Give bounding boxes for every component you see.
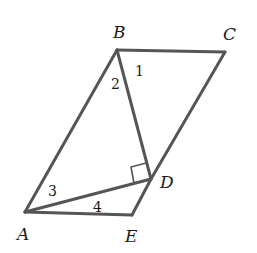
segment-ea [25,212,132,215]
vertex-label-e: E [124,226,138,246]
segment-ab [25,50,117,212]
vertex-label-c: C [223,24,236,44]
segment-bc [117,50,225,52]
angle-label-3: 3 [48,183,57,199]
segment-cd [151,52,225,179]
angle-label-2: 2 [111,76,120,92]
geometry-diagram: B C D A E 1 2 3 4 [0,0,257,253]
segment-bd [117,50,151,179]
diagram-svg: B C D A E 1 2 3 4 [0,0,257,253]
segment-ad [25,179,151,212]
angle-label-4: 4 [93,199,102,215]
angle-label-1: 1 [135,63,144,79]
vertex-label-a: A [15,224,29,244]
vertex-label-d: D [159,172,174,192]
vertex-label-b: B [112,22,126,42]
